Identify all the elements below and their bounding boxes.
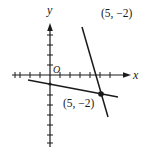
x-axis-label: x <box>132 68 139 82</box>
y-axis-arrow-icon <box>47 23 53 31</box>
top-right-point-label: (5, −2) <box>101 7 133 20</box>
coordinate-diagram: y x O (5, −2) (5, −2) <box>0 0 145 155</box>
x-axis-arrow-icon <box>123 72 131 78</box>
intersection-point-dot <box>98 91 104 97</box>
y-axis-label: y <box>46 3 53 17</box>
y-intercept-dot <box>48 82 51 85</box>
origin-label: O <box>53 64 60 75</box>
shallow-line <box>28 80 118 97</box>
intersection-point-label: (5, −2) <box>63 97 95 110</box>
